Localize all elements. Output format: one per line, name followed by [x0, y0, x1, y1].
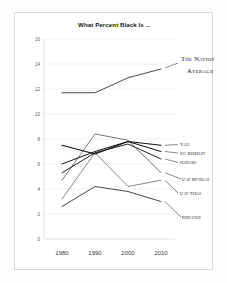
x-tick-1990: 1990 — [88, 250, 102, 256]
series-line-u-of-michigan — [62, 134, 161, 180]
data-series-group — [62, 69, 161, 207]
y-tick-12: 12 — [35, 87, 41, 92]
y-tick-6: 6 — [37, 162, 40, 167]
y-axis-ticks: 16 14 12 10 8 6 4 2 0 — [35, 37, 41, 242]
x-axis-ticks: 1980 1990 2000 2010 — [55, 250, 168, 256]
y-tick-2: 2 — [37, 212, 40, 217]
annotation-u-of-texas: U of Texas — [180, 191, 201, 196]
x-tick-2010: 2010 — [154, 250, 168, 256]
series-line-princeton — [62, 187, 161, 207]
chart-frame: What Percent Black Is ... 16 14 12 10 8 — [14, 12, 213, 270]
y-tick-14: 14 — [35, 62, 41, 67]
annotation-yale: Yale — [180, 142, 190, 147]
y-tick-8: 8 — [37, 137, 40, 142]
annotation-leaders — [165, 63, 181, 217]
annotation-uc-berkeley: UC Berkeley — [180, 151, 206, 156]
x-tick-1980: 1980 — [55, 250, 69, 256]
annotation-national-average-line1: The National — [181, 55, 214, 62]
y-tick-0: 0 — [37, 237, 40, 242]
y-tick-10: 10 — [35, 112, 41, 117]
annotation-national-average-line2: Average — [187, 67, 213, 74]
series-annotations: The National Average Yale UC Berkeley Ha… — [180, 55, 214, 220]
annotation-harvard: Harvard — [180, 160, 197, 165]
gridlines — [44, 39, 175, 239]
y-tick-16: 16 — [35, 37, 41, 42]
y-tick-4: 4 — [37, 187, 40, 192]
chart-plot-area: 16 14 12 10 8 6 4 2 0 1980 1990 2000 201… — [15, 13, 214, 271]
annotation-princeton: Princeton — [182, 215, 202, 220]
chart-page: What Percent Black Is ... 16 14 12 10 8 — [0, 0, 227, 283]
annotation-u-of-michigan: U of Michigan — [182, 177, 210, 182]
x-tick-2000: 2000 — [121, 250, 135, 256]
